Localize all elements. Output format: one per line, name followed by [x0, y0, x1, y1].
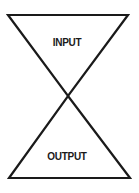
output-label: OUTPUT [47, 151, 87, 162]
hourglass-diagram: INPUT OUTPUT [0, 0, 139, 193]
input-triangle [8, 15, 128, 96]
output-triangle [9, 96, 130, 178]
input-label: INPUT [53, 37, 82, 48]
